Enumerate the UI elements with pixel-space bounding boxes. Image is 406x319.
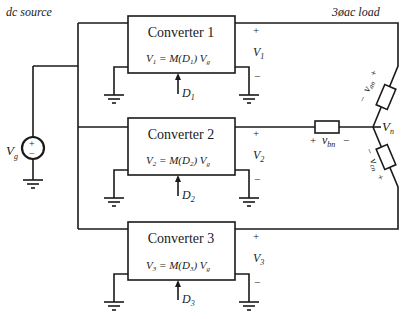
duty-label-2: D2: [181, 188, 195, 204]
output-voltage-2: V2: [253, 148, 264, 164]
svg-text:+: +: [253, 127, 259, 139]
arrow-up-icon: [175, 73, 181, 80]
svg-text:vbn: vbn: [322, 133, 335, 149]
converter-2: Converter 2 V2 = M(D2) Vg D2 + V2 −: [104, 118, 264, 206]
duty-label-1: D1: [181, 86, 195, 102]
ground-icon: [239, 95, 259, 103]
svg-text:+: +: [253, 24, 259, 36]
dc-source-label: dc source: [6, 5, 53, 19]
svg-text:+: +: [367, 68, 379, 78]
svg-text:−: −: [356, 94, 368, 104]
converter-1-title: Converter 1: [148, 25, 214, 40]
converter-1: Converter 1 V1 = M(D1) Vg D1 + V1 −: [104, 16, 264, 103]
source-minus: −: [29, 148, 35, 159]
converter-2-title: Converter 2: [148, 127, 214, 142]
svg-text:−: −: [254, 173, 260, 185]
load-resistor-an: [376, 85, 396, 110]
svg-text:+: +: [375, 172, 387, 182]
dc-voltage-source: + − V g: [6, 137, 44, 161]
svg-text:+: +: [253, 230, 259, 242]
load-resistor-bn: [315, 121, 339, 133]
ground-icon: [239, 302, 259, 310]
svg-text:vcn: vcn: [366, 156, 384, 173]
ground-icon: [239, 198, 259, 206]
converter-3: Converter 3 V3 = M(D3) Vg D3 + V3 −: [104, 222, 264, 310]
arrow-up-icon: [175, 175, 181, 182]
converter-3-title: Converter 3: [148, 231, 214, 246]
converter-2-equation: V2 = M(D2) Vg: [146, 154, 211, 168]
ground-icon: [104, 198, 124, 206]
output-voltage-3: V3: [253, 251, 264, 267]
v-bn-label: + vbn −: [310, 133, 349, 149]
arrow-up-icon: [175, 280, 181, 287]
converter-1-equation: V1 = M(D1) Vg: [146, 52, 211, 66]
output-voltage-1: V1: [253, 45, 264, 61]
ground-icon: [104, 302, 124, 310]
converter-3-equation: V3 = M(D3) Vg: [146, 259, 211, 273]
duty-label-3: D3: [181, 292, 195, 308]
svg-text:van: van: [360, 77, 378, 94]
ground-icon: [104, 95, 124, 103]
svg-text:−: −: [254, 276, 260, 288]
ground-icon: [23, 180, 43, 188]
svg-text:g: g: [14, 152, 18, 161]
svg-text:−: −: [254, 70, 260, 82]
svg-text:−: −: [343, 134, 349, 146]
svg-text:+: +: [310, 134, 316, 146]
ac-load-label: 3øac load: [331, 5, 381, 19]
three-phase-inverter-diagram: dc source 3øac load + − V g Converter 1 …: [0, 0, 406, 319]
svg-text:−: −: [364, 147, 376, 157]
v-an-label: − van +: [355, 68, 381, 105]
neutral-node-label: Vn: [382, 119, 394, 136]
